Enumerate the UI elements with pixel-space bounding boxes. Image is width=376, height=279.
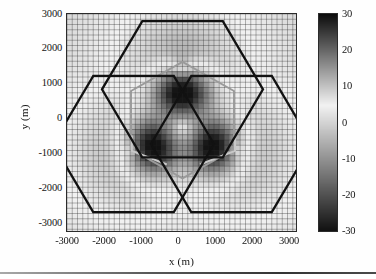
y-tick-label: -3000: [4, 218, 62, 228]
colorbar-tick-label: -10: [342, 154, 355, 164]
colorbar-tick-label: -20: [342, 190, 355, 200]
colorbar[interactable]: [318, 13, 338, 232]
page-bottom-margin: [0, 274, 376, 279]
y-tick-label: 0: [4, 113, 62, 123]
y-tick-label: -1000: [4, 148, 62, 158]
y-tick-label: -2000: [4, 183, 62, 193]
y-tick-label: 2000: [4, 43, 62, 53]
coverage-hexagon: [131, 62, 234, 178]
colorbar-tick-label: -30: [342, 226, 355, 236]
cell-right: [151, 76, 297, 212]
colorbar-tick-label: 20: [342, 45, 352, 55]
colorbar-tick-label: 0: [342, 118, 347, 128]
x-axis-label: x (m): [66, 255, 297, 267]
colorbar-gradient: [319, 14, 337, 231]
y-tick-label: 1000: [4, 78, 62, 88]
x-tick-label: 3000: [259, 236, 319, 246]
figure-root: 3000 2000 1000 0 -1000 -2000 -3000 -3000…: [0, 0, 376, 279]
y-axis-label: y (m): [18, 81, 30, 153]
colorbar-tick-label: 30: [342, 9, 352, 19]
colorbar-tick-label: 10: [342, 81, 352, 91]
cell-left: [67, 76, 214, 212]
y-tick-label: 3000: [4, 9, 62, 19]
heatmap-plot[interactable]: [66, 13, 297, 232]
cell-boundary-overlay: [67, 14, 297, 232]
